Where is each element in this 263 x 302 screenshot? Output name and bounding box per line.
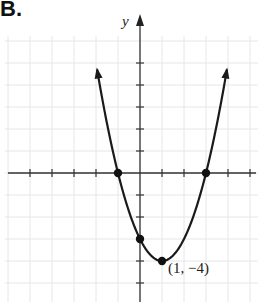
data-point xyxy=(114,169,122,177)
data-point xyxy=(158,257,166,265)
point-label: (1, −4) xyxy=(168,260,209,277)
y-axis-label: y xyxy=(120,13,129,29)
y-axis-arrow-icon xyxy=(136,14,144,26)
data-point xyxy=(202,169,210,177)
parabola-graph: y(1, −4) xyxy=(0,0,263,302)
data-point xyxy=(136,235,144,243)
figure: B. y(1, −4) xyxy=(0,0,263,302)
